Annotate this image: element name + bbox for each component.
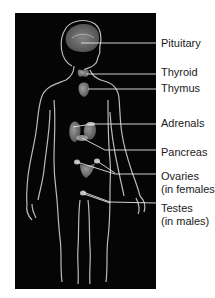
label-testes-note: (in males) — [161, 215, 209, 228]
label-pancreas: Pancreas — [161, 146, 207, 159]
body-outline — [27, 21, 145, 284]
thymus-organ — [79, 83, 90, 97]
label-ovaries-note: (in females) — [161, 183, 215, 196]
label-thyroid: Thyroid — [161, 66, 198, 79]
label-pituitary: Pituitary — [161, 37, 201, 50]
label-testes: Testes — [161, 202, 193, 215]
leader-pancreas — [82, 138, 156, 150]
label-thymus: Thymus — [161, 82, 200, 95]
label-adrenals: Adrenals — [161, 117, 204, 130]
brain-shape — [66, 24, 99, 52]
label-ovaries: Ovaries — [161, 170, 199, 183]
leader-lines — [73, 43, 156, 203]
thyroid-organ — [78, 69, 89, 76]
